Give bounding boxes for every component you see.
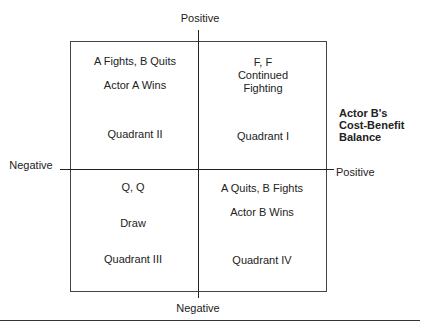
bottom-rule — [0, 320, 420, 321]
q1-result-line2: Fighting — [208, 82, 318, 95]
q2-name: Quadrant II — [80, 128, 190, 141]
q4-result: Actor B Wins — [207, 206, 317, 219]
q3-name: Quadrant III — [78, 253, 188, 266]
q3-result: Draw — [78, 217, 188, 230]
horizontal-axis-right-label: Positive — [336, 166, 386, 179]
actor-b-balance-label: Actor B's Cost-Benefit Balance — [339, 107, 404, 143]
q4-name: Quadrant IV — [207, 254, 317, 267]
vertical-axis-bottom-label: Negative — [168, 302, 228, 315]
q3-outcome: Q, Q — [78, 181, 188, 194]
horizontal-axis-left-label: Negative — [4, 159, 58, 172]
q4-outcome: A Quits, B Fights — [207, 182, 317, 195]
q1-name: Quadrant I — [208, 130, 318, 143]
horizontal-axis — [60, 169, 334, 170]
vertical-axis — [198, 30, 199, 298]
q2-outcome: A Fights, B Quits — [80, 55, 190, 68]
q2-result: Actor A Wins — [80, 79, 190, 92]
q1-outcome: F, F — [208, 56, 318, 69]
vertical-axis-top-label: Positive — [170, 12, 230, 25]
q1-result-line1: Continued — [208, 69, 318, 82]
